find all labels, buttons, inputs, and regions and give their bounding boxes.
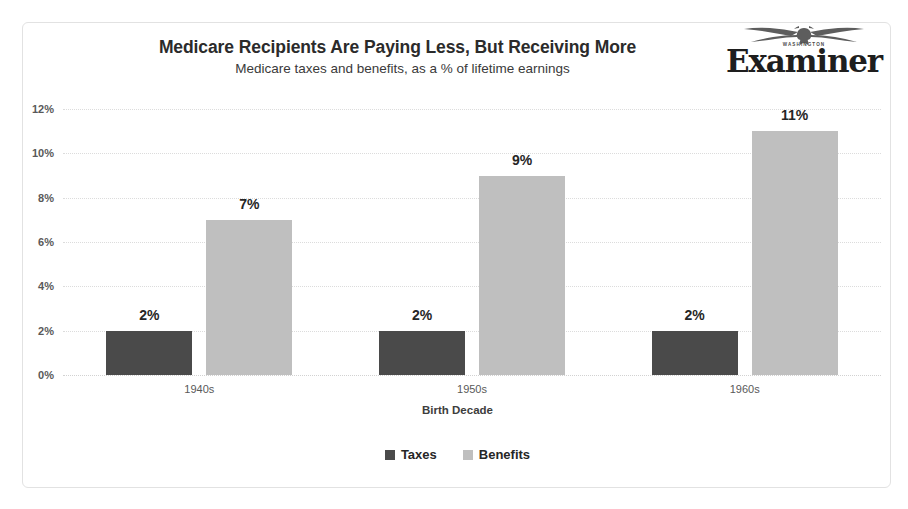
plot-area: 12%10%8%6%4%2%0%2%7%2%9%2%11% — [63, 109, 881, 375]
legend-swatch-benefits — [463, 450, 473, 460]
x-axis-tick-label-1950s: 1950s — [457, 383, 487, 395]
bar-taxes-1940s[interactable] — [106, 331, 192, 375]
bar-value-label: 7% — [239, 196, 259, 212]
bar-value-label: 2% — [412, 307, 432, 323]
bar-value-label: 9% — [512, 152, 532, 168]
chart-legend: TaxesBenefits — [23, 447, 892, 462]
washington-examiner-logo: WASHINGTON Examiner — [724, 25, 884, 83]
x-axis-line — [63, 375, 881, 376]
chart-screenshot: Medicare Recipients Are Paying Less, But… — [0, 0, 908, 509]
legend-label: Benefits — [479, 447, 530, 462]
chart-frame: Medicare Recipients Are Paying Less, But… — [22, 22, 891, 488]
legend-swatch-taxes — [385, 450, 395, 460]
bar-benefits-1960s[interactable] — [752, 131, 838, 375]
legend-item-taxes[interactable]: Taxes — [385, 447, 437, 462]
x-axis-tick-label-1940s: 1940s — [184, 383, 214, 395]
y-axis-tick-label: 10% — [32, 147, 54, 159]
bar-value-label: 11% — [781, 107, 808, 123]
x-axis-tick-label-1960s: 1960s — [730, 383, 760, 395]
y-axis-tick-label: 8% — [38, 192, 54, 204]
bar-benefits-1950s[interactable] — [479, 176, 565, 376]
bar-benefits-1940s[interactable] — [206, 220, 292, 375]
bar-value-label: 2% — [139, 307, 159, 323]
bar-taxes-1950s[interactable] — [379, 331, 465, 375]
legend-item-benefits[interactable]: Benefits — [463, 447, 530, 462]
y-axis-tick-label: 4% — [38, 280, 54, 292]
y-axis-tick-label: 6% — [38, 236, 54, 248]
y-axis-tick-label: 0% — [38, 369, 54, 381]
y-gridline — [63, 109, 881, 110]
y-axis-tick-label: 2% — [38, 325, 54, 337]
bar-value-label: 2% — [685, 307, 705, 323]
x-axis-title: Birth Decade — [23, 404, 892, 416]
legend-label: Taxes — [401, 447, 437, 462]
y-axis-tick-label: 12% — [32, 103, 54, 115]
logo-wordmark: Examiner — [726, 43, 882, 79]
bar-taxes-1960s[interactable] — [652, 331, 738, 375]
